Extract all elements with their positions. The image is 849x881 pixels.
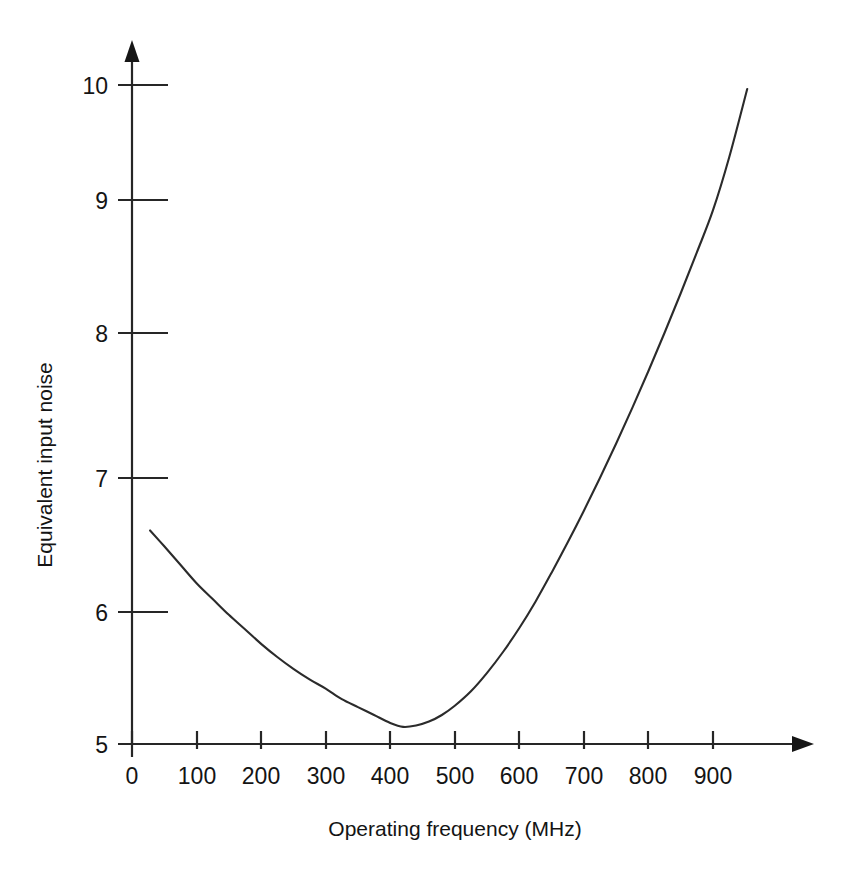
y-tick-label-8: 8: [95, 321, 108, 347]
x-tick-label-0: 0: [126, 763, 139, 789]
y-tick-label-5: 5: [95, 732, 108, 758]
arrow-right-icon: [792, 736, 814, 752]
y-tick-label-7: 7: [95, 466, 108, 492]
x-tick-label-500: 500: [436, 763, 474, 789]
x-tick-label-600: 600: [500, 763, 538, 789]
y-axis-ticks: [118, 85, 168, 744]
chart-plot-area: 5 6 7 8 9 10 0 100 200 300 400 5: [0, 0, 849, 881]
y-tick-label-9: 9: [95, 188, 108, 214]
x-tick-label-900: 900: [694, 763, 732, 789]
chart-figure: 5 6 7 8 9 10 0 100 200 300 400 5: [0, 0, 849, 881]
x-axis-title: Operating frequency (MHz): [328, 817, 581, 840]
arrow-up-icon: [125, 40, 140, 62]
x-tick-label-100: 100: [178, 763, 216, 789]
x-tick-label-800: 800: [629, 763, 667, 789]
x-tick-label-200: 200: [242, 763, 280, 789]
y-axis-tick-labels: 5 6 7 8 9 10: [82, 73, 108, 758]
x-tick-label-300: 300: [307, 763, 345, 789]
y-tick-label-6: 6: [95, 600, 108, 626]
y-axis-title: Equivalent input noise: [33, 362, 56, 567]
y-tick-label-10: 10: [82, 73, 108, 99]
x-tick-label-400: 400: [371, 763, 409, 789]
x-axis-tick-labels: 0 100 200 300 400 500 600 700 800 900: [126, 763, 733, 789]
data-series-line: [150, 89, 747, 727]
x-tick-label-700: 700: [565, 763, 603, 789]
